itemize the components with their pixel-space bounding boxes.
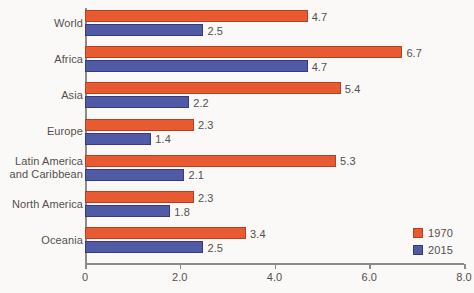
tick-mark	[464, 264, 466, 269]
category-label-africa: Africa	[0, 53, 83, 66]
legend-item-1970: 1970	[413, 224, 453, 241]
legend-label-1970: 1970	[428, 227, 453, 239]
category-label-latin-america-and-caribbean: Latin America and Caribbean	[0, 155, 83, 180]
bar-1970-africa	[85, 46, 402, 58]
bar-2015-north-america	[85, 205, 170, 217]
tick-label-4.0: 4.0	[267, 271, 283, 283]
bar-value-label: 4.7	[312, 61, 328, 73]
category-label-oceania: Oceania	[0, 234, 83, 247]
bar-value-label: 2.5	[207, 242, 223, 254]
category-label-asia: Asia	[0, 89, 83, 102]
bar-2015-africa	[85, 60, 308, 72]
tick-label-8.0: 8.0	[456, 271, 472, 283]
bar-2015-asia	[85, 96, 189, 108]
bar-value-label: 6.7	[406, 47, 422, 59]
bar-1970-asia	[85, 82, 341, 94]
tick-mark	[85, 264, 87, 269]
tick-label-0: 0	[82, 271, 88, 283]
bar-value-label: 1.4	[155, 133, 171, 145]
bar-1970-europe	[85, 119, 194, 131]
bar-value-label: 2.3	[198, 192, 214, 204]
bar-value-label: 4.7	[312, 11, 328, 23]
bar-2015-world	[85, 24, 203, 36]
tick-label-2.0: 2.0	[172, 271, 188, 283]
bar-1970-world	[85, 10, 308, 22]
bar-2015-latin-america-and-caribbean	[85, 169, 184, 181]
bar-chart: WorldAfricaAsiaEuropeLatin America and C…	[0, 0, 474, 293]
tick-label-6.0: 6.0	[361, 271, 377, 283]
bar-1970-latin-america-and-caribbean	[85, 155, 336, 167]
tick-mark	[369, 264, 371, 269]
bar-value-label: 5.4	[345, 83, 361, 95]
bar-value-label: 1.8	[174, 206, 190, 218]
chart-legend: 19702015	[413, 224, 453, 258]
tick-mark	[275, 264, 277, 269]
bar-value-label: 2.2	[193, 97, 209, 109]
category-label-europe: Europe	[0, 125, 83, 138]
bar-2015-europe	[85, 133, 151, 145]
bar-value-label: 2.3	[198, 119, 214, 131]
bar-2015-oceania	[85, 241, 203, 253]
legend-swatch-2015	[413, 245, 423, 255]
bar-value-label: 2.5	[207, 25, 223, 37]
bar-value-label: 3.4	[250, 228, 266, 240]
legend-item-2015: 2015	[413, 241, 453, 258]
legend-swatch-1970	[413, 228, 423, 238]
legend-label-2015: 2015	[428, 244, 453, 256]
bar-1970-north-america	[85, 191, 194, 203]
tick-mark	[180, 264, 182, 269]
category-label-north-america: North America	[0, 198, 83, 211]
bar-value-label: 5.3	[340, 155, 356, 167]
category-label-world: World	[0, 17, 83, 30]
bar-1970-oceania	[85, 227, 246, 239]
bar-value-label: 2.1	[188, 169, 204, 181]
